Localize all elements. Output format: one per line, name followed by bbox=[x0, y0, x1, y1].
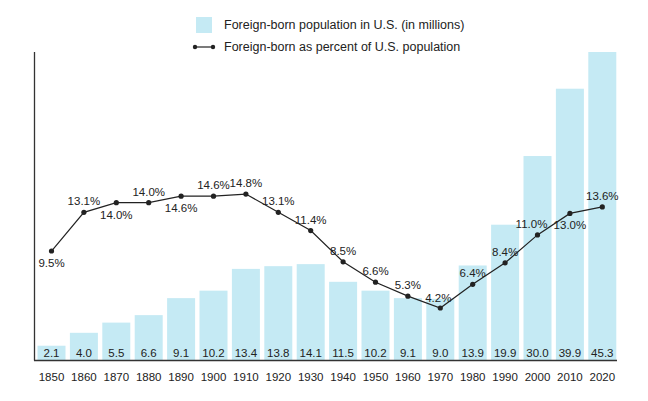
line-value-label: 14.0% bbox=[100, 209, 133, 221]
line-point-marker-icon bbox=[243, 191, 248, 196]
bar-value-label: 13.4 bbox=[235, 347, 258, 359]
bar-series bbox=[38, 52, 617, 360]
line-point-marker-icon bbox=[438, 305, 443, 310]
line-value-label: 13.6% bbox=[586, 190, 619, 202]
line-point-marker-icon bbox=[341, 259, 346, 264]
line-point-marker-icon bbox=[503, 260, 508, 265]
line-value-label: 5.3% bbox=[395, 279, 421, 291]
x-tick-label: 1880 bbox=[136, 371, 162, 383]
line-value-label: 6.4% bbox=[460, 267, 486, 279]
x-tick-label: 1870 bbox=[104, 371, 130, 383]
x-tick-label: 1860 bbox=[71, 371, 97, 383]
x-axis-tick-labels: 1850186018701880189019001910192019301940… bbox=[39, 371, 615, 383]
x-tick-label: 1930 bbox=[298, 371, 324, 383]
bar-value-label: 2.1 bbox=[44, 347, 60, 359]
x-tick-label: 1890 bbox=[168, 371, 194, 383]
line-point-marker-icon bbox=[535, 232, 540, 237]
line-value-label: 14.6% bbox=[197, 179, 230, 191]
line-value-label: 9.5% bbox=[38, 257, 64, 269]
line-point-marker-icon bbox=[470, 282, 475, 287]
bar-value-label: 9.0 bbox=[432, 347, 448, 359]
line-value-label: 13.1% bbox=[68, 195, 101, 207]
percent-line bbox=[52, 194, 603, 308]
x-tick-label: 1950 bbox=[363, 371, 389, 383]
line-value-label: 13.0% bbox=[554, 219, 587, 231]
x-tick-label: 2000 bbox=[525, 371, 551, 383]
line-point-marker-icon bbox=[567, 211, 572, 216]
bar-value-label: 4.0 bbox=[76, 347, 92, 359]
bar-value-label: 14.1 bbox=[300, 347, 322, 359]
line-point-marker-icon bbox=[276, 210, 281, 215]
bar-value-label: 9.1 bbox=[173, 347, 189, 359]
line-value-label: 4.2% bbox=[425, 292, 451, 304]
bar-value-label: 13.8 bbox=[267, 347, 289, 359]
bar-value-label: 45.3 bbox=[591, 347, 613, 359]
line-point-marker-icon bbox=[114, 200, 119, 205]
bar-value-label: 6.6 bbox=[141, 347, 157, 359]
x-tick-label: 1990 bbox=[492, 371, 518, 383]
bar-value-label: 10.2 bbox=[364, 347, 386, 359]
line-value-label: 13.1% bbox=[262, 195, 295, 207]
line-value-label: 14.6% bbox=[165, 202, 198, 214]
line-value-label: 8.5% bbox=[330, 245, 356, 257]
line-value-label: 14.0% bbox=[132, 186, 165, 198]
bar-2000 bbox=[524, 156, 552, 360]
bar-value-label: 13.9 bbox=[462, 347, 484, 359]
line-point-marker-icon bbox=[211, 194, 216, 199]
bar-value-label: 9.1 bbox=[400, 347, 416, 359]
x-tick-label: 1940 bbox=[330, 371, 356, 383]
line-value-label: 6.6% bbox=[362, 265, 388, 277]
line-point-marker-icon bbox=[308, 228, 313, 233]
line-point-marker-icon bbox=[49, 248, 54, 253]
x-tick-label: 2020 bbox=[590, 371, 616, 383]
x-tick-label: 1900 bbox=[201, 371, 227, 383]
bar-value-label: 30.0 bbox=[526, 347, 548, 359]
bar-value-label: 11.5 bbox=[332, 347, 354, 359]
x-tick-label: 1920 bbox=[266, 371, 292, 383]
line-point-marker-icon bbox=[81, 210, 86, 215]
bar-value-label: 10.2 bbox=[202, 347, 224, 359]
line-point-marker-icon bbox=[179, 194, 184, 199]
x-tick-label: 1910 bbox=[233, 371, 259, 383]
bar-value-label: 39.9 bbox=[559, 347, 581, 359]
line-value-label: 11.4% bbox=[295, 214, 327, 226]
line-value-label: 11.0% bbox=[516, 218, 548, 230]
line-point-marker-icon bbox=[373, 280, 378, 285]
x-tick-label: 2010 bbox=[557, 371, 583, 383]
line-value-label: 14.8% bbox=[230, 177, 263, 189]
chart-canvas: 2.14.05.56.69.110.213.413.814.111.510.29… bbox=[0, 0, 648, 401]
line-point-marker-icon bbox=[600, 204, 605, 209]
bar-value-label: 5.5 bbox=[108, 347, 124, 359]
x-tick-label: 1980 bbox=[460, 371, 486, 383]
x-tick-label: 1850 bbox=[39, 371, 65, 383]
line-point-marker-icon bbox=[405, 294, 410, 299]
bar-value-label: 19.9 bbox=[494, 347, 516, 359]
x-tick-label: 1960 bbox=[395, 371, 421, 383]
line-value-label: 8.4% bbox=[492, 246, 518, 258]
x-tick-label: 1970 bbox=[428, 371, 454, 383]
line-point-marker-icon bbox=[146, 200, 151, 205]
